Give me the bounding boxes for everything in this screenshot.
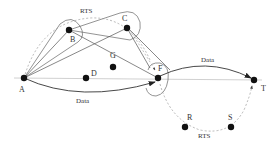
node-T — [251, 77, 257, 83]
label-C: C — [122, 14, 127, 23]
label-data-top: Data — [201, 56, 215, 64]
node-R — [182, 124, 188, 130]
label-B: B — [70, 35, 75, 44]
label-G: G — [110, 51, 116, 60]
node-B — [66, 27, 72, 33]
label-T: T — [261, 84, 266, 93]
node-D — [83, 75, 89, 81]
data-curve-F-T — [160, 66, 251, 78]
label-D: D — [91, 69, 97, 78]
data-curve-A-F — [24, 78, 155, 92]
label-A: A — [19, 85, 25, 94]
node-G — [110, 64, 116, 70]
label-data-bottom: Data — [76, 97, 90, 105]
node-F — [155, 75, 161, 81]
routing-diagram: A B C G D F T R S RTS Data Data RTS — [0, 0, 275, 145]
label-F: F — [158, 64, 163, 73]
edge-C-F-2 — [130, 30, 170, 70]
label-rts-top: RTS — [80, 7, 93, 15]
baseline-edge — [14, 78, 262, 80]
node-S — [228, 124, 234, 130]
rts-curve-bottom — [160, 84, 252, 131]
label-S: S — [228, 113, 232, 122]
edge-A-B — [24, 30, 69, 78]
node-A — [21, 75, 27, 81]
edge-C-F-dashed — [130, 30, 155, 70]
node-C — [124, 25, 130, 31]
label-rts-bottom: RTS — [198, 132, 211, 140]
label-R: R — [187, 113, 193, 122]
